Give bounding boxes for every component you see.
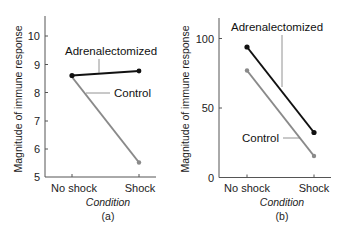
y-axis-title: Magnitude of immune response [179,25,191,172]
control-point [312,154,316,158]
label-control: Control [114,87,151,99]
adrenalectomized-point [69,73,74,78]
panel-tag: (a) [102,210,115,222]
y-tick-label: 7 [34,115,40,127]
adrenalectomized-line [247,47,314,133]
panel-a: 5 6 7 8 9 10 No shock Shock Magnitude of… [12,16,157,222]
x-tick-label-no-shock: No shock [51,182,97,194]
panel-tag: (b) [276,210,289,222]
adrenalectomized-point [137,69,142,74]
y-tick-label: 0 [208,172,214,184]
control-point [137,160,141,164]
label-adrenalectomized: Adrenalectomized [65,45,157,57]
label-control: Control [242,132,279,144]
y-tick-label: 10 [28,30,40,42]
x-axis-title: Condition [86,196,131,208]
control-point [245,68,249,72]
adrenalectomized-point [311,130,316,135]
x-tick-label-no-shock: No shock [224,182,270,194]
y-tick-label: 6 [34,143,40,155]
y-tick-label: 50 [202,102,214,114]
y-tick-label: 100 [196,33,214,45]
y-tick-label: 9 [34,59,40,71]
label-adrenalectomized: Adrenalectomized [231,21,323,33]
y-tick-label: 5 [34,171,40,183]
y-tick-label: 8 [34,87,40,99]
panel-b: 0 50 100 No shock Shock Magnitude of imm… [179,18,331,222]
adrenalectomized-point [244,44,249,49]
x-tick-label-shock: Shock [125,182,156,194]
x-tick-label-shock: Shock [299,182,330,194]
figure: 5 6 7 8 9 10 No shock Shock Magnitude of… [0,0,347,233]
x-axis-title: Condition [260,196,305,208]
y-axis-title: Magnitude of immune response [12,25,24,172]
adrenalectomized-line [72,71,139,76]
